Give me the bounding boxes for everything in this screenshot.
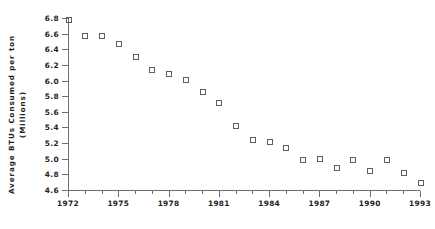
x-axis-tick-label: 1978 (149, 199, 189, 208)
data-point-marker (99, 33, 105, 39)
x-axis-tick-minor (102, 191, 103, 194)
data-point-marker (367, 168, 373, 174)
data-point-marker (166, 71, 172, 77)
data-point-marker (283, 145, 289, 151)
x-axis-tick-major (269, 191, 270, 197)
data-point-marker (250, 137, 256, 143)
data-point-marker (82, 33, 88, 39)
y-axis-tick-label: 4.6 (33, 186, 59, 195)
data-point-marker (200, 89, 206, 95)
x-axis-tick-major (219, 191, 220, 197)
x-axis-tick-label: 1993 (400, 199, 435, 208)
data-point-marker (116, 41, 122, 47)
y-axis-title-line-2: (Millions) (18, 91, 27, 138)
x-axis-tick-major (118, 191, 119, 197)
y-axis-tick-label: 6.4 (33, 45, 59, 54)
data-point-marker (384, 157, 390, 163)
data-point-marker (149, 67, 155, 73)
x-axis-tick-label: 1987 (299, 199, 339, 208)
data-point-marker (317, 156, 323, 162)
y-axis-tick-label: 5.6 (33, 108, 59, 117)
x-axis-tick-minor (152, 191, 153, 194)
x-axis-tick-major (169, 191, 170, 197)
y-axis-tick-label: 5.2 (33, 139, 59, 148)
y-axis-tick-label: 5.0 (33, 155, 59, 164)
x-axis-tick-major (420, 191, 421, 197)
x-axis-tick-minor (353, 191, 354, 194)
x-axis-tick-minor (303, 191, 304, 194)
data-point-marker (401, 170, 407, 176)
x-axis-tick-minor (135, 191, 136, 194)
y-axis-tick-label: 4.8 (33, 170, 59, 179)
y-axis-tick-label: 6.2 (33, 61, 59, 70)
x-axis-tick-label: 1972 (48, 199, 88, 208)
y-axis-title-line-1: Average BTUs Consumed per ton (7, 35, 16, 194)
x-axis-tick-minor (286, 191, 287, 194)
x-axis-tick-minor (252, 191, 253, 194)
x-axis-tick-minor (202, 191, 203, 194)
data-point-marker (267, 139, 273, 145)
y-axis-title: Average BTUs Consumed per ton (Millions) (0, 0, 34, 229)
data-point-marker (133, 54, 139, 60)
y-axis-tick-label: 6.6 (33, 30, 59, 39)
x-axis-tick-minor (236, 191, 237, 194)
data-point-marker (216, 100, 222, 106)
x-axis-tick-label: 1975 (98, 199, 138, 208)
x-axis-line (68, 190, 420, 191)
x-axis-tick-minor (185, 191, 186, 194)
y-axis-tick-label: 5.8 (33, 92, 59, 101)
x-axis-tick-label: 1981 (199, 199, 239, 208)
y-axis-tick-label: 6.0 (33, 77, 59, 86)
x-axis-tick-minor (336, 191, 337, 194)
x-axis-tick-minor (85, 191, 86, 194)
x-axis-tick-major (319, 191, 320, 197)
x-axis-tick-label: 1990 (350, 199, 390, 208)
data-point-marker (350, 157, 356, 163)
data-point-marker (334, 165, 340, 171)
data-point-marker (66, 17, 72, 23)
y-axis-tick-label: 6.8 (33, 14, 59, 23)
x-axis-tick-minor (403, 191, 404, 194)
data-point-marker (233, 123, 239, 129)
x-axis-tick-minor (386, 191, 387, 194)
data-point-marker (300, 157, 306, 163)
x-axis-tick-major (370, 191, 371, 197)
x-axis-tick-major (68, 191, 69, 197)
data-point-marker (418, 180, 424, 186)
x-axis-tick-label: 1984 (249, 199, 289, 208)
y-axis-tick-label: 5.4 (33, 123, 59, 132)
data-point-marker (183, 77, 189, 83)
